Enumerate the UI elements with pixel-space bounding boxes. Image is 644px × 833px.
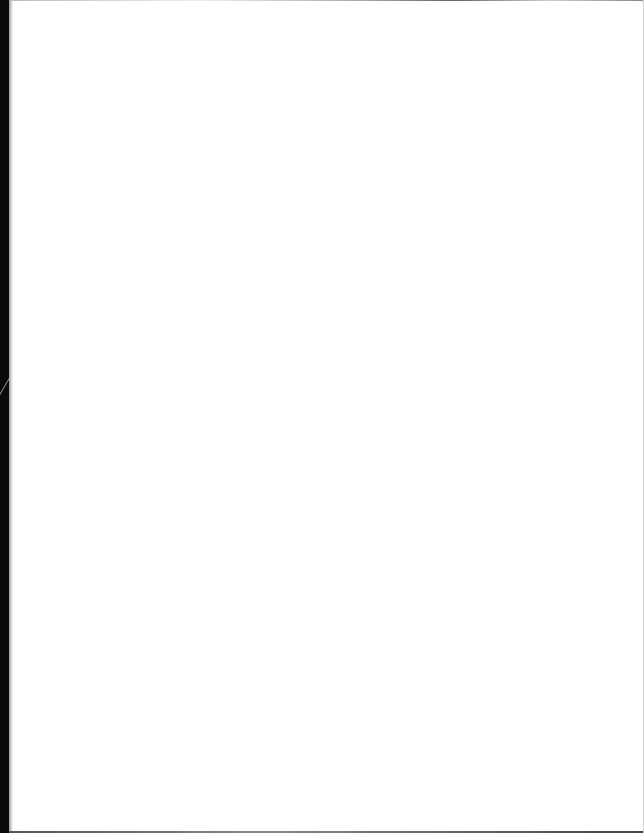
- blank-scanned-page: [0, 0, 644, 833]
- page-top-edge: [9, 0, 644, 1]
- page-content-area: [40, 40, 604, 793]
- spine-shadow: [9, 0, 13, 833]
- binding-spine-edge: [0, 0, 9, 833]
